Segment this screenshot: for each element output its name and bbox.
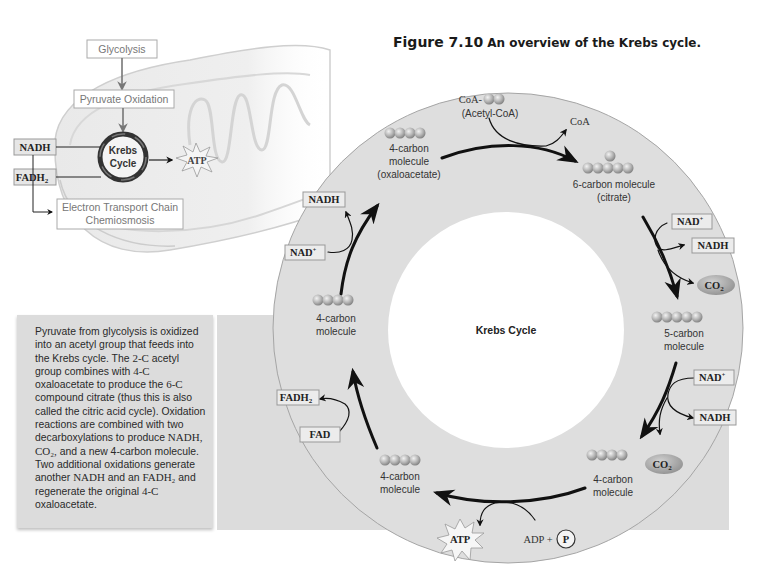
svg-text:FAD: FAD <box>310 429 331 440</box>
svg-text:NAD+: NAD+ <box>699 372 726 383</box>
svg-text:ATP: ATP <box>187 155 206 166</box>
svg-text:ADP +: ADP + <box>523 534 552 545</box>
molecule-4-carbon-bottom-right: 4-carbon molecule <box>587 450 634 499</box>
overview-pyruvate-oxidation-label: Pyruvate Oxidation <box>80 93 169 105</box>
cofactor-co2-2: CO2 <box>645 454 683 474</box>
cofactor-co2-1: CO2 <box>697 275 735 295</box>
svg-text:5-carbon: 5-carbon <box>664 328 703 339</box>
svg-text:Krebs: Krebs <box>109 145 138 156</box>
coa-released-label: CoA <box>570 116 590 127</box>
svg-text:molecule: molecule <box>380 484 420 495</box>
svg-text:(citrate): (citrate) <box>597 192 631 203</box>
svg-text:ATP: ATP <box>450 534 471 545</box>
svg-text:6-carbon molecule: 6-carbon molecule <box>573 179 656 190</box>
svg-text:NAD+: NAD+ <box>677 216 704 227</box>
svg-text:Cycle: Cycle <box>110 158 137 169</box>
svg-text:4-carbon: 4-carbon <box>380 471 419 482</box>
svg-text:(Acetyl-CoA): (Acetyl-CoA) <box>462 108 519 119</box>
cofactor-fad: FAD <box>300 427 340 442</box>
overview-etc-label: Electron Transport Chain <box>62 201 178 213</box>
molecule-4-carbon-left: 4-carbon molecule <box>313 295 357 338</box>
svg-text:4-carbon: 4-carbon <box>389 143 428 154</box>
cofactor-nadh-2: NADH <box>694 410 736 425</box>
cofactor-nad-plus-3: NAD+ <box>285 245 325 260</box>
svg-text:molecule: molecule <box>316 326 356 337</box>
cofactor-nad-plus-2: NAD+ <box>694 370 734 385</box>
overview-chemiosmosis-label: Chemiosmosis <box>86 214 155 226</box>
svg-text:NADH: NADH <box>698 240 729 251</box>
description-text: Pyruvate from glycolysis is oxidized int… <box>35 325 207 511</box>
krebs-figure: Glycolysis Pyruvate Oxidation Krebs Cycl… <box>0 0 767 587</box>
overview-glycolysis-label: Glycolysis <box>98 43 145 55</box>
svg-text:molecule: molecule <box>389 156 429 167</box>
svg-text:CoA-: CoA- <box>459 94 483 105</box>
svg-text:P: P <box>563 534 570 545</box>
overview-nadh-label: NADH <box>20 142 51 153</box>
figure-title: Figure 7.10 An overview of the Krebs cyc… <box>393 34 701 50</box>
cofactor-nadh-1: NADH <box>692 238 734 253</box>
cofactor-nadh-3: NADH <box>303 192 345 207</box>
description-box: Pyruvate from glycolysis is oxidized int… <box>17 315 213 528</box>
figure-caption: An overview of the Krebs cycle. <box>487 36 701 50</box>
svg-text:NAD+: NAD+ <box>290 247 317 258</box>
svg-text:4-carbon: 4-carbon <box>316 313 355 324</box>
krebs-cycle-mini-icon: Krebs Cycle <box>100 134 146 180</box>
svg-text:molecule: molecule <box>593 487 633 498</box>
svg-text:NADH: NADH <box>700 412 731 423</box>
figure-number: Figure 7.10 <box>393 34 483 50</box>
cofactor-fadh2: FADH2 <box>277 390 319 405</box>
svg-text:(oxaloacetate): (oxaloacetate) <box>377 169 440 180</box>
svg-text:4-carbon: 4-carbon <box>593 474 632 485</box>
svg-text:NADH: NADH <box>309 194 340 205</box>
cofactor-nad-plus-1: NAD+ <box>672 214 712 229</box>
krebs-cycle-center-label: Krebs Cycle <box>476 324 537 336</box>
molecule-4-carbon-bottom: 4-carbon molecule <box>380 455 421 496</box>
svg-text:molecule: molecule <box>664 341 704 352</box>
